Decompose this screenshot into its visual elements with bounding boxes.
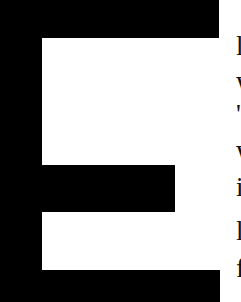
document-page: l W ' W i l f	[0, 0, 241, 302]
text-line: l	[236, 218, 241, 245]
text-line: '	[236, 101, 241, 128]
dropcap-bottom-bar	[0, 270, 220, 302]
dropcap-middle-bar	[0, 165, 175, 212]
dropcap-letter-e	[0, 0, 221, 302]
text-line: l	[236, 33, 241, 60]
body-text-column: l W ' W i l f	[236, 0, 241, 302]
text-line: W	[236, 73, 241, 100]
text-line: i	[236, 174, 241, 201]
text-line: W	[236, 142, 241, 169]
text-line: f	[236, 255, 241, 282]
dropcap-stem	[0, 0, 42, 302]
